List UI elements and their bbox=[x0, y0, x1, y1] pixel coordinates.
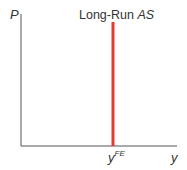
curve-label-italic: AS bbox=[136, 8, 154, 22]
marker-label-sup: FE bbox=[115, 149, 126, 158]
y-axis-label: P bbox=[10, 7, 19, 22]
curve-label: Long-Run AS bbox=[79, 8, 155, 22]
curve-label-main: Long-Run bbox=[79, 8, 137, 22]
x-axis-label: y bbox=[170, 150, 179, 165]
las-diagram: P Long-Run AS yFE y bbox=[0, 0, 187, 170]
full-employment-output-label: yFE bbox=[107, 149, 125, 165]
